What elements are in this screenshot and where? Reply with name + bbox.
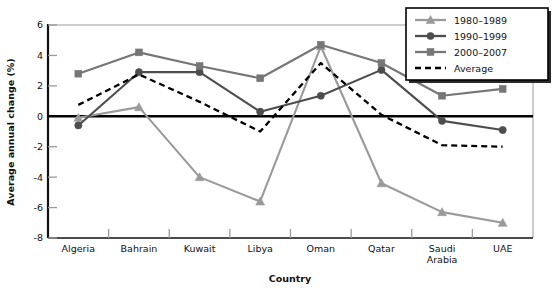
x-category-label: Saudi bbox=[429, 243, 456, 254]
data-point-marker bbox=[317, 41, 324, 48]
x-axis-title: Country bbox=[269, 273, 312, 284]
data-point-marker bbox=[196, 63, 203, 70]
legend-item-label: Average bbox=[454, 63, 493, 74]
data-point-marker bbox=[136, 49, 143, 56]
data-point-marker bbox=[499, 86, 506, 93]
y-tick-label: 0 bbox=[37, 111, 43, 122]
y-tick-label: -8 bbox=[34, 232, 43, 243]
y-tick-label: 2 bbox=[37, 80, 43, 91]
x-category-label: Bahrain bbox=[121, 243, 158, 254]
data-point-marker bbox=[257, 75, 264, 82]
chart-legend: 1980–19891990–19992000–2007Average bbox=[406, 8, 551, 83]
data-point-marker bbox=[499, 126, 506, 133]
x-category-label: Algeria bbox=[62, 243, 95, 254]
y-tick-label: 4 bbox=[37, 50, 43, 61]
x-category-label: Qatar bbox=[368, 243, 395, 254]
data-point-marker bbox=[438, 117, 445, 124]
legend-item-label: 1980–1989 bbox=[454, 15, 507, 26]
data-point-marker bbox=[75, 70, 82, 77]
data-point-marker bbox=[257, 108, 264, 115]
y-tick-label: -6 bbox=[34, 202, 43, 213]
data-point-marker bbox=[427, 49, 434, 56]
x-category-label: Libya bbox=[247, 243, 272, 254]
y-tick-label: 6 bbox=[37, 19, 43, 30]
y-tick-label: -2 bbox=[34, 141, 43, 152]
chart-container: 6420-2-4-6-8 AlgeriaBahrainKuwaitLibyaOm… bbox=[0, 0, 552, 288]
line-chart: 6420-2-4-6-8 AlgeriaBahrainKuwaitLibyaOm… bbox=[0, 0, 552, 288]
x-category-label: Arabia bbox=[427, 254, 458, 265]
legend-item-label: 1990–1999 bbox=[454, 31, 507, 42]
x-category-label: Kuwait bbox=[184, 243, 216, 254]
data-point-marker bbox=[75, 122, 82, 129]
y-tick-label: -4 bbox=[34, 172, 43, 183]
data-point-marker bbox=[439, 92, 446, 99]
data-point-marker bbox=[378, 60, 385, 67]
data-point-marker bbox=[317, 92, 324, 99]
data-point-marker bbox=[427, 32, 434, 39]
x-category-label: UAE bbox=[493, 243, 512, 254]
x-category-label: Oman bbox=[307, 243, 336, 254]
y-axis-title: Average annual change (%) bbox=[5, 58, 16, 205]
legend-item-label: 2000–2007 bbox=[454, 47, 507, 58]
data-point-marker bbox=[378, 66, 385, 73]
